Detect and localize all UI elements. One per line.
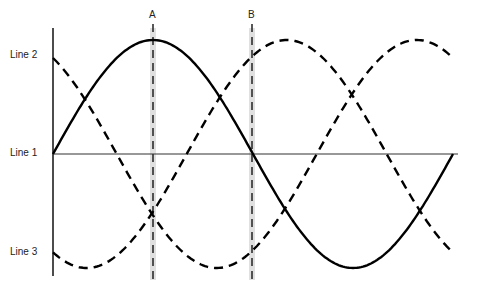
phase-diagram: A B Line 2 Line 1 Line 3: [0, 0, 477, 294]
line-3-label: Line 3: [10, 247, 37, 257]
line-2-label: Line 2: [10, 50, 37, 60]
marker-a-label: A: [149, 10, 156, 20]
marker-b-label: B: [248, 10, 255, 20]
line-1-label: Line 1: [10, 148, 37, 158]
waveform-plot: [0, 0, 477, 294]
